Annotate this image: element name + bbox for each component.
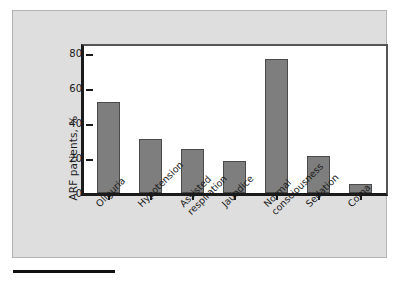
caption-divider-rule [13, 270, 115, 273]
y-tick-mark [86, 89, 93, 91]
y-tick-label: 80 [69, 48, 82, 59]
y-tick-mark [86, 54, 93, 56]
plot-area: ARF patients, % 0 20 40 60 80 [81, 44, 388, 196]
y-tick-label: 40 [69, 118, 82, 129]
figure-panel: ARF patients, % 0 20 40 60 80 [12, 10, 387, 258]
y-tick-mark [86, 159, 93, 161]
y-tick-label: 20 [69, 153, 82, 164]
bar-normal-consciousness [265, 59, 288, 194]
y-tick-label: 60 [69, 83, 82, 94]
y-tick-mark [86, 124, 93, 126]
y-tick-mark [86, 194, 93, 196]
y-tick-label: 0 [76, 188, 82, 199]
